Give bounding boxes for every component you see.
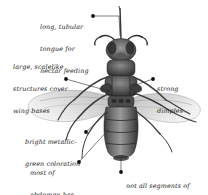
dot-segments [119,170,123,174]
callout-wing-bases-line-3: wing bases [13,108,67,115]
callout-pinkish-tinge-line-2: abdomen has [30,192,76,195]
callout-segments-line-1: not all segments of [126,183,206,190]
callout-segments: not all segments of abdomen are visible … [126,168,206,195]
callout-pinkish-tinge: most of abdomen has pinkish tinge [30,155,76,195]
left-compound-eye [108,42,117,55]
callout-coloration-line-1: bright metallic- [25,139,83,146]
callout-pinkish-tinge-line-1: most of [30,170,76,177]
leader-tongue [93,16,120,36]
mouthparts [116,52,126,59]
dot-coloration [84,130,88,134]
callout-wing-bases-line-1: large, scalelike [13,64,67,71]
callout-dimples-line-1: strong [157,86,203,93]
callout-dimples-line-2: dimples [157,108,203,115]
insect-anatomy-figure: long, tubular tongue for nectar feeding … [0,0,208,195]
callout-dimples: strong dimples [157,71,203,130]
head-group [106,39,136,62]
right-compound-eye [126,42,135,55]
dimples [111,99,130,103]
callout-tongue-line-1: long, tubular [40,24,92,31]
dot-dimples [151,77,155,81]
callout-wing-bases-line-2: structures cover [13,86,67,93]
callout-wing-bases: large, scalelike structures cover wing b… [13,49,67,130]
abdomen-group [104,107,138,161]
